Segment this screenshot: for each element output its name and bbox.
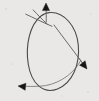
speck [5,8,6,9]
speck [30,38,31,39]
sketch-svg [0,0,99,101]
speck [62,96,63,97]
paper-background [0,0,99,101]
speck [87,91,88,92]
speck [11,63,12,64]
speck [90,13,91,14]
diagram-canvas [0,0,99,101]
